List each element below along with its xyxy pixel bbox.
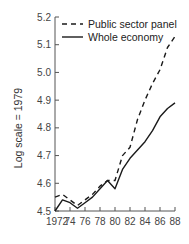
whole-economy-line (55, 103, 175, 211)
x-tick-label: 74 (64, 216, 76, 227)
y-tick-label: 4.6 (37, 178, 51, 189)
x-tick-label: 78 (94, 216, 106, 227)
x-tick-label: 84 (139, 216, 151, 227)
legend-label: Whole economy (88, 31, 164, 43)
series-layer (55, 36, 175, 211)
line-chart: 4.54.64.74.84.95.05.15.2 197274767880828… (0, 0, 189, 244)
legend: Public sector panelWhole economy (62, 18, 177, 43)
y-tick-label: 4.7 (37, 150, 51, 161)
y-tick-label: 4.8 (37, 122, 51, 133)
x-axis: 19727476788082848688 (46, 207, 181, 227)
y-tick-label: 5.1 (37, 39, 51, 50)
x-tick-label: 80 (109, 216, 121, 227)
x-tick-label: 88 (169, 216, 181, 227)
y-axis: 4.54.64.74.84.95.05.15.2 (37, 12, 59, 217)
y-tick-label: 4.9 (37, 95, 51, 106)
x-tick-label: 82 (124, 216, 136, 227)
legend-label: Public sector panel (88, 18, 177, 30)
x-tick-label: 76 (79, 216, 91, 227)
y-tick-label: 5.2 (37, 12, 51, 23)
y-axis-label: Log scale = 1979 (12, 88, 24, 168)
y-tick-label: 4.5 (37, 206, 51, 217)
x-tick-label: 86 (154, 216, 166, 227)
y-tick-label: 5.0 (37, 67, 51, 78)
